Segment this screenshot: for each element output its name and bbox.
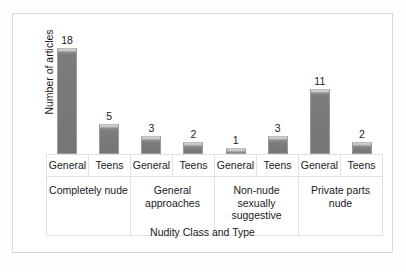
bar-value-label: 2 (359, 129, 365, 140)
bar-value-label: 5 (106, 111, 112, 122)
bar-group: 5 (88, 20, 130, 154)
bar[interactable] (57, 48, 77, 154)
type-label-cell: General (131, 155, 173, 177)
type-label-cell: Teens (89, 155, 131, 177)
bar[interactable] (352, 142, 372, 154)
bar-group: 3 (130, 20, 172, 154)
bar-group: 2 (172, 20, 214, 154)
bar-group: 1 (215, 20, 257, 154)
bar-group: 3 (257, 20, 299, 154)
bar-value-label: 2 (191, 129, 197, 140)
category-label-table: General Teens General Teens General Teen… (46, 154, 383, 236)
type-label-row: General Teens General Teens General Teen… (47, 155, 383, 177)
bar-group: 18 (46, 20, 88, 154)
bar-value-label: 18 (61, 35, 73, 46)
bar[interactable] (141, 136, 161, 154)
bar[interactable] (183, 142, 203, 154)
x-axis-title: Nudity Class and Type (13, 226, 392, 238)
type-label-cell: Teens (257, 155, 299, 177)
bar-group: 2 (341, 20, 383, 154)
bar[interactable] (310, 89, 330, 154)
bar-group: 11 (299, 20, 341, 154)
bar[interactable] (99, 124, 119, 154)
bar-value-label: 1 (233, 135, 239, 146)
bar-value-label: 3 (148, 123, 154, 134)
type-label-cell: Teens (341, 155, 383, 177)
chart-frame: Number of articles 1853213112 General Te… (12, 13, 393, 253)
type-label-cell: General (215, 155, 257, 177)
bar-value-label: 3 (275, 123, 281, 134)
plot-area: 1853213112 (46, 20, 383, 154)
bar[interactable] (268, 136, 288, 154)
type-label-cell: Teens (173, 155, 215, 177)
type-label-cell: General (47, 155, 89, 177)
bar-chart-figure: Number of articles 1853213112 General Te… (0, 0, 406, 272)
type-label-cell: General (299, 155, 341, 177)
bar-value-label: 11 (314, 76, 325, 87)
